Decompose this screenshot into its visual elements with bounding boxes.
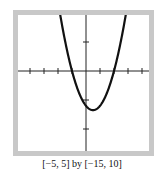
window-caption: [−5, 5] by [−15, 10] [0, 158, 164, 170]
parabola-curve [55, 15, 131, 110]
graph-svg [18, 15, 149, 151]
plot-area [18, 15, 149, 151]
